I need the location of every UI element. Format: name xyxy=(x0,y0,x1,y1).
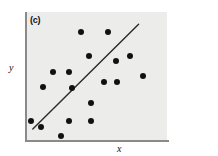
data-point xyxy=(40,84,46,90)
data-point xyxy=(88,118,94,124)
data-point xyxy=(66,69,72,75)
data-point xyxy=(28,118,34,124)
data-point xyxy=(69,85,75,91)
data-point xyxy=(101,79,107,85)
data-point xyxy=(88,100,94,106)
data-point xyxy=(66,118,72,124)
data-point xyxy=(86,53,92,59)
data-point xyxy=(113,58,119,64)
data-points-layer xyxy=(25,12,167,140)
data-point xyxy=(114,79,120,85)
data-point xyxy=(58,133,64,139)
x-axis-label: x xyxy=(117,143,121,154)
data-point xyxy=(78,29,84,35)
data-point xyxy=(127,53,133,59)
panel-label: (c) xyxy=(30,15,40,25)
data-point xyxy=(140,73,146,79)
data-point xyxy=(105,29,111,35)
y-axis-label: y xyxy=(9,62,13,73)
scatter-figure: (c) y x xyxy=(0,0,218,156)
data-point xyxy=(50,69,56,75)
x-axis-line xyxy=(25,140,169,142)
data-point xyxy=(38,124,44,130)
